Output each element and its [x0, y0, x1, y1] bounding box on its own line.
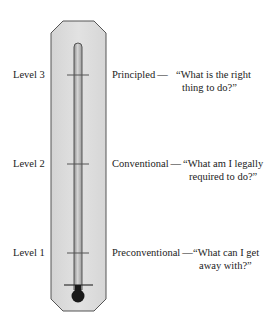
- quote-preconventional: “What can I get away with?”: [193, 247, 259, 272]
- quote-line-1: “What can I get: [193, 247, 259, 258]
- level-3-label: Level 3: [13, 69, 45, 81]
- level-1-label: Level 1: [13, 247, 45, 259]
- stage-name: Preconventional: [112, 247, 180, 259]
- stage-conventional: Conventional—: [112, 158, 183, 170]
- quote-line-1: “What is the right: [176, 69, 251, 80]
- quote-line-1: “What am I legally: [183, 158, 263, 169]
- stage-name: Conventional: [112, 158, 169, 170]
- quote-principled: “What is the right thing to do?”: [176, 69, 251, 94]
- thermometer-bulb: [72, 290, 85, 303]
- stage-dash: —: [157, 69, 168, 81]
- quote-line-2: required to do?”: [183, 171, 263, 184]
- stage-dash: —: [171, 158, 182, 170]
- stage-principled: Principled—: [112, 69, 170, 81]
- moral-development-thermometer-diagram: Level 3 Level 2 Level 1 Principled— “Wha…: [0, 0, 275, 326]
- quote-line-2: away with?”: [193, 260, 259, 273]
- quote-line-2: thing to do?”: [176, 82, 251, 95]
- stage-name: Principled: [112, 69, 155, 81]
- level-2-label: Level 2: [13, 158, 45, 170]
- stage-dash: —: [182, 247, 193, 259]
- stage-preconventional: Preconventional—: [112, 247, 195, 259]
- quote-conventional: “What am I legally required to do?”: [183, 158, 263, 183]
